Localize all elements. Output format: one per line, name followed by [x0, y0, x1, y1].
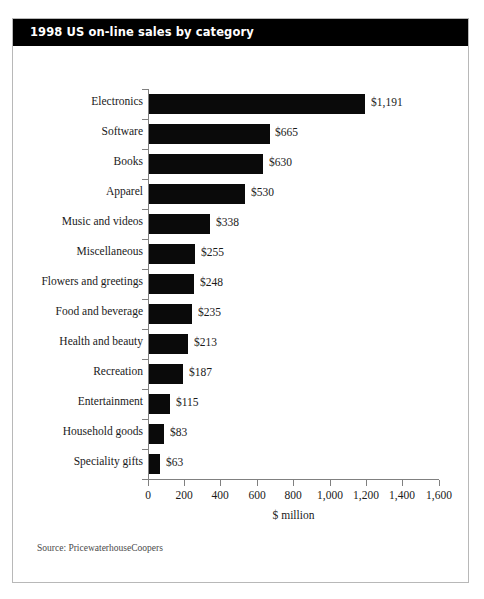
x-axis-tick: [293, 480, 294, 486]
bar-row: Speciality gifts $63: [13, 449, 468, 479]
x-axis-tick-label: 1,200: [353, 489, 379, 501]
x-axis-title: $ million: [148, 509, 439, 521]
bar-value-label: $338: [216, 216, 239, 228]
bar: [149, 214, 210, 234]
y-axis-tick: [142, 329, 148, 330]
bar-value-label: $213: [194, 336, 217, 348]
x-axis-tick: [148, 480, 149, 486]
y-axis-tick: [142, 419, 148, 420]
x-axis-tick-label: 0: [145, 489, 151, 501]
bar-row: Flowers and greetings $248: [13, 269, 468, 299]
bar-row: Miscellaneous $255: [13, 239, 468, 269]
bar-value-label: $63: [166, 456, 183, 468]
category-label: Books: [114, 155, 143, 167]
bar: [149, 124, 270, 144]
y-axis-tick: [142, 89, 148, 90]
x-axis-tick-label: 600: [248, 489, 265, 501]
bar: [149, 154, 263, 174]
bar-row: Electronics $1,191: [13, 89, 468, 119]
x-axis-tick-label: 400: [211, 489, 228, 501]
bar: [149, 424, 164, 444]
y-axis-tick: [142, 149, 148, 150]
bar-value-label: $83: [170, 426, 187, 438]
x-axis-tick: [330, 480, 331, 486]
bar: [149, 184, 245, 204]
plot-area: Electronics $1,191 Software $665 Books $…: [13, 46, 468, 584]
category-label: Food and beverage: [56, 305, 144, 317]
chart-figure: 1998 US on-line sales by category Electr…: [12, 18, 469, 583]
bar-row: Books $630: [13, 149, 468, 179]
bar-row: Recreation $187: [13, 359, 468, 389]
bar-row: Apparel $530: [13, 179, 468, 209]
x-axis-tick: [402, 480, 403, 486]
bar-row: Food and beverage $235: [13, 299, 468, 329]
bar: [149, 394, 170, 414]
bar: [149, 94, 365, 114]
x-axis-tick-label: 800: [284, 489, 301, 501]
bar-row: Household goods $83: [13, 419, 468, 449]
category-label: Entertainment: [78, 395, 143, 407]
bar-value-label: $630: [269, 156, 292, 168]
source-note: Source: PricewaterhouseCoopers: [37, 543, 163, 553]
y-axis-tick: [142, 119, 148, 120]
category-label: Electronics: [91, 95, 143, 107]
y-axis-tick: [142, 359, 148, 360]
bar: [149, 454, 160, 474]
category-label: Recreation: [93, 365, 143, 377]
x-axis-tick: [366, 480, 367, 486]
category-label: Miscellaneous: [77, 245, 143, 257]
x-axis-tick-label: 1,000: [317, 489, 343, 501]
bar-value-label: $665: [275, 126, 298, 138]
category-label: Apparel: [106, 185, 143, 197]
bar-value-label: $530: [251, 186, 274, 198]
x-axis-tick-label: 1,600: [426, 489, 452, 501]
category-label: Flowers and greetings: [41, 275, 143, 287]
x-axis-tick-label: 1,400: [389, 489, 415, 501]
bar: [149, 304, 192, 324]
bar-value-label: $255: [201, 246, 224, 258]
bar-value-label: $248: [200, 276, 223, 288]
y-axis-tick: [142, 269, 148, 270]
category-label: Speciality gifts: [74, 455, 143, 467]
y-axis-tick: [142, 209, 148, 210]
x-axis-tick-label: 200: [175, 489, 192, 501]
chart-title: 1998 US on-line sales by category: [30, 25, 254, 39]
x-axis-tick: [439, 480, 440, 486]
bar-row: Health and beauty $213: [13, 329, 468, 359]
x-axis-tick: [220, 480, 221, 486]
bar-row: Entertainment $115: [13, 389, 468, 419]
y-axis-tick: [142, 239, 148, 240]
bar-row: Music and videos $338: [13, 209, 468, 239]
bar-row: Software $665: [13, 119, 468, 149]
y-axis-tick: [142, 299, 148, 300]
y-axis-tick: [142, 389, 148, 390]
bar-value-label: $187: [189, 366, 212, 378]
y-axis-tick: [142, 179, 148, 180]
bar: [149, 244, 195, 264]
bar-value-label: $235: [198, 306, 221, 318]
category-label: Music and videos: [62, 215, 143, 227]
bar: [149, 334, 188, 354]
y-axis-tick: [142, 449, 148, 450]
chart-title-bar: 1998 US on-line sales by category: [13, 19, 468, 46]
x-axis-tick: [184, 480, 185, 486]
category-label: Household goods: [63, 425, 143, 437]
bar-value-label: $1,191: [371, 96, 403, 108]
bar-value-label: $115: [176, 396, 199, 408]
category-label: Software: [101, 125, 143, 137]
x-axis-tick: [257, 480, 258, 486]
category-label: Health and beauty: [59, 335, 143, 347]
bar: [149, 274, 194, 294]
bar: [149, 364, 183, 384]
